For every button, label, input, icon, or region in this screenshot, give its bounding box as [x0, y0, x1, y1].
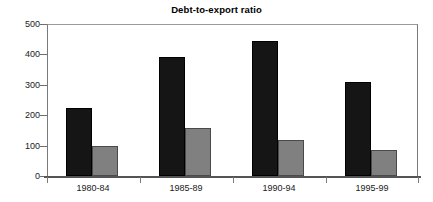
bar-series2-1985-89[interactable] — [185, 128, 211, 176]
bar-series2-1980-84[interactable] — [92, 146, 118, 176]
bars-layer — [47, 24, 418, 176]
y-axis-tick-100 — [40, 146, 47, 147]
bar-chart: Debt-to-export ratio 500 400 300 200 100… — [0, 0, 433, 202]
bar-series1-1985-89[interactable] — [159, 57, 185, 176]
y-axis-tick-400 — [40, 54, 47, 55]
x-axis-category-1985-89: 1985-89 — [141, 183, 231, 193]
y-axis-label-200: 200 — [10, 111, 40, 120]
y-axis-label-0: 0 — [10, 172, 40, 181]
y-axis-label-300: 300 — [10, 81, 40, 90]
y-axis-tick-200 — [40, 115, 47, 116]
bar-series2-1990-94[interactable] — [278, 140, 304, 176]
x-axis-category-1990-94: 1990-94 — [234, 183, 324, 193]
bar-series1-1980-84[interactable] — [66, 108, 92, 176]
bar-series1-1995-99[interactable] — [345, 82, 371, 176]
y-axis-tick-300 — [40, 85, 47, 86]
x-axis-tick-4 — [418, 177, 419, 183]
y-axis-label-400: 400 — [10, 50, 40, 59]
x-axis-category-1995-99: 1995-99 — [327, 183, 417, 193]
y-axis-tick-500 — [40, 24, 47, 25]
y-axis-label-100: 100 — [10, 142, 40, 151]
y-axis-labels: 500 400 300 200 100 0 — [4, 0, 40, 202]
x-axis-category-1980-84: 1980-84 — [48, 183, 138, 193]
y-axis-label-500: 500 — [10, 20, 40, 29]
bar-series2-1995-99[interactable] — [371, 150, 397, 176]
bar-series1-1990-94[interactable] — [252, 41, 278, 176]
chart-title: Debt-to-export ratio — [0, 4, 433, 15]
